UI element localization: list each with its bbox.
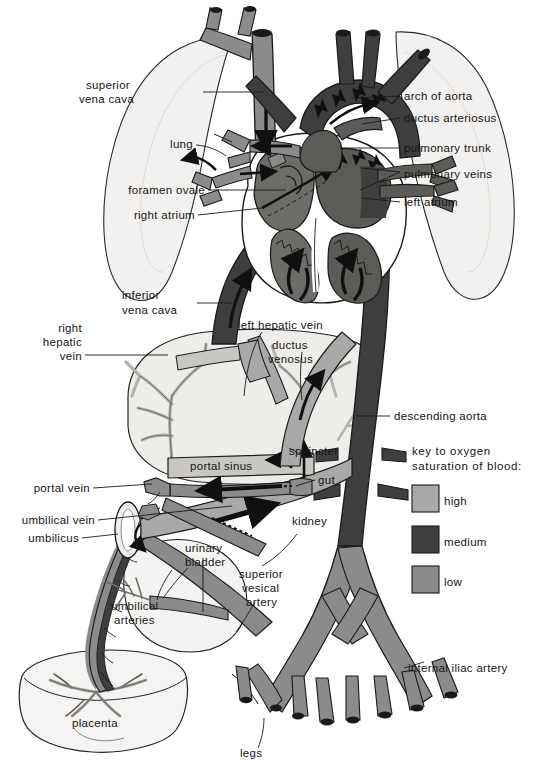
label-right-atrium: right atrium <box>134 209 195 221</box>
label-superior-vesical-artery-line1: superior <box>239 568 283 580</box>
legend-label-medium: medium <box>444 536 487 548</box>
label-urinary-bladder-line1: urinary <box>185 542 222 554</box>
diagram-canvas: superior vena cava lung foramen ovale ri… <box>0 0 542 766</box>
label-ductus-venosus-line2: venosus <box>268 353 313 365</box>
label-umbilical-arteries-line1: umbilical <box>111 600 158 612</box>
legend-swatch-low <box>412 566 439 593</box>
legend-label-high: high <box>444 495 467 507</box>
label-pulmonary-trunk: pulmonary trunk <box>404 142 491 154</box>
label-right-hepatic-vein-line3: vein <box>60 350 82 362</box>
label-gut: gut <box>318 474 335 486</box>
label-umbilical-vein: umbilical vein <box>22 514 95 526</box>
label-sphincter: sphincter <box>289 445 338 457</box>
label-umbilicus: umbilicus <box>28 532 79 544</box>
label-legs: legs <box>240 747 262 759</box>
label-right-hepatic-vein-line1: right <box>58 322 82 334</box>
label-placenta: placenta <box>72 717 118 729</box>
label-umbilical-arteries-line2: arteries <box>114 614 155 626</box>
label-superior-vesical-artery-line3: artery <box>246 596 277 608</box>
label-descending-aorta: descending aorta <box>394 410 487 422</box>
fetal-circulation-figure: superior vena cava lung foramen ovale ri… <box>0 0 542 766</box>
label-inferior-vena-cava-line1: inferior <box>122 289 160 301</box>
label-portal-vein: portal vein <box>34 482 90 494</box>
label-portal-sinus: portal sinus <box>190 460 252 472</box>
label-superior-vena-cava-line1: superior <box>86 79 130 91</box>
legend-title-line1: key to oxygen <box>412 445 491 457</box>
label-internal-iliac-artery: internal iliac artery <box>408 662 508 674</box>
label-pulmonary-veins: pulmonary veins <box>404 168 492 180</box>
legend-title-line2: saturation of blood: <box>412 460 522 472</box>
legend-label-low: low <box>444 576 463 588</box>
label-kidney: kidney <box>292 515 327 527</box>
label-left-atrium: left atrium <box>404 196 458 208</box>
legend-swatch-high <box>412 485 439 512</box>
label-lung: lung <box>170 138 193 150</box>
label-urinary-bladder-line2: bladder <box>185 556 225 568</box>
label-inferior-vena-cava-line2: vena cava <box>122 304 177 316</box>
label-arch-of-aorta: arch of aorta <box>404 90 473 102</box>
label-superior-vena-cava-line2: vena cava <box>79 93 134 105</box>
label-foramen-ovale: foramen ovale <box>128 184 205 196</box>
label-superior-vesical-artery-line2: vesical <box>242 582 279 594</box>
label-ductus-venosus-line1: ductus <box>272 339 308 351</box>
label-left-hepatic-vein: left hepatic vein <box>238 319 323 331</box>
legend-swatch-medium <box>412 526 439 553</box>
label-ductus-arteriosus: ductus arteriosus <box>404 112 497 124</box>
label-right-hepatic-vein-line2: hepatic <box>43 336 82 348</box>
